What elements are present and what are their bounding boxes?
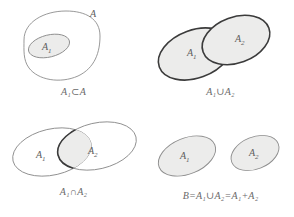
label-inter-A2-sub: 2 [94,151,98,159]
venn-figure: A A1 A₁⊂A A1 A2 A₁∪A₂ [0,0,294,217]
intersection-lens-group [53,115,141,178]
intersection-lens-region [53,115,141,178]
label-union-A2-sub: 2 [241,39,245,47]
label-inter-A1: A1 [35,149,46,163]
caption-union: A₁∪A₂ [147,86,294,97]
label-inner-A1-sub: 1 [48,47,52,55]
label-disjoint-A1-sub: 1 [186,156,190,164]
caption-intersection: A₁∩A₂ [0,186,147,197]
panel-disjoint: A1 A2 B=A₁∪A₂=A₁+A₂ [147,108,294,217]
panel-subset: A A1 A₁⊂A [0,0,147,108]
label-inter-A1-sub: 1 [42,155,46,163]
label-outer-A: A [89,8,97,19]
panel-union: A1 A2 A₁∪A₂ [147,0,294,108]
label-disjoint-A2-sub: 2 [255,153,259,161]
caption-subset: A₁⊂A [0,86,147,97]
label-inter-A2: A2 [87,145,98,159]
panel-intersection: A1 A2 A₁∩A₂ [0,108,147,217]
label-union-A1-sub: 1 [193,53,197,61]
panel-intersection-graphic: A1 A2 [0,108,147,216]
caption-disjoint: B=A₁∪A₂=A₁+A₂ [147,190,294,201]
